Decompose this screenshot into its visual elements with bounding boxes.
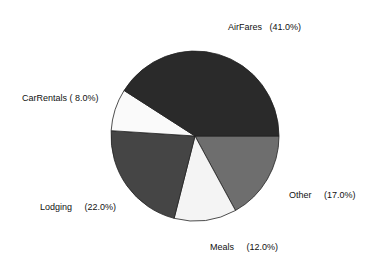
- slice-label-other: Other (17.0%): [289, 191, 356, 200]
- slice-name: Other: [289, 190, 312, 200]
- slice-name: CarRentals: [22, 93, 67, 103]
- slice-label-carrentals: CarRentals ( 8.0%): [22, 94, 99, 103]
- slice-label-lodging: Lodging (22.0%): [40, 203, 116, 212]
- slice-name: Meals: [210, 242, 234, 252]
- slice-percent: ( 8.0%): [70, 93, 99, 103]
- slice-percent: (22.0%): [85, 202, 117, 212]
- slice-name: Lodging: [40, 202, 72, 212]
- slice-percent: (12.0%): [247, 242, 279, 252]
- slice-percent: (17.0%): [324, 190, 356, 200]
- slice-name: AirFares: [228, 22, 262, 32]
- slice-percent: (41.0%): [270, 22, 302, 32]
- pie-chart: [0, 0, 374, 266]
- slice-label-airfares: AirFares (41.0%): [228, 23, 301, 32]
- slice-label-meals: Meals (12.0%): [210, 243, 278, 252]
